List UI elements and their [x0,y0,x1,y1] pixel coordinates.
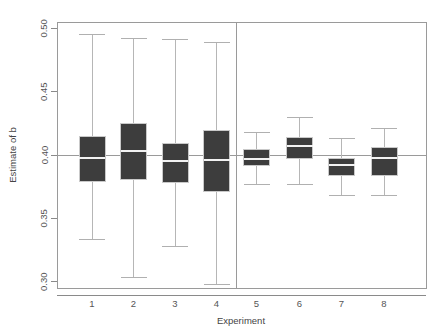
box-iqr-rect [204,131,230,192]
box-iqr-rect [162,144,188,183]
box-iqr-rect [287,137,313,159]
box-iqr-rect [371,147,397,175]
y-axis-title: Estimate of b [7,127,18,182]
x-tick-label: 6 [297,298,302,309]
y-tick-label: 0.45 [39,82,50,101]
x-tick-label: 7 [339,298,344,309]
y-tick-label: 0.40 [39,146,50,165]
x-axis-title: Experiment [217,315,265,326]
box-iqr-rect [79,136,105,182]
y-tick-label: 0.50 [39,19,50,38]
x-tick-label: 8 [381,298,386,309]
x-tick-label: 4 [214,298,219,309]
y-tick-label: 0.35 [39,209,50,228]
x-tick-label: 5 [254,298,259,309]
x-tick-label: 3 [172,298,177,309]
x-tick-label: 2 [131,298,136,309]
plot-canvas: 0.300.350.400.450.50 12345678 Estimate o… [0,0,448,331]
box-iqr-rect [329,159,355,175]
x-tick-label: 1 [89,298,94,309]
boxplot-chart: 0.300.350.400.450.50 12345678 Estimate o… [0,0,448,331]
box-iqr-rect [244,150,270,165]
y-tick-label: 0.30 [39,272,50,291]
